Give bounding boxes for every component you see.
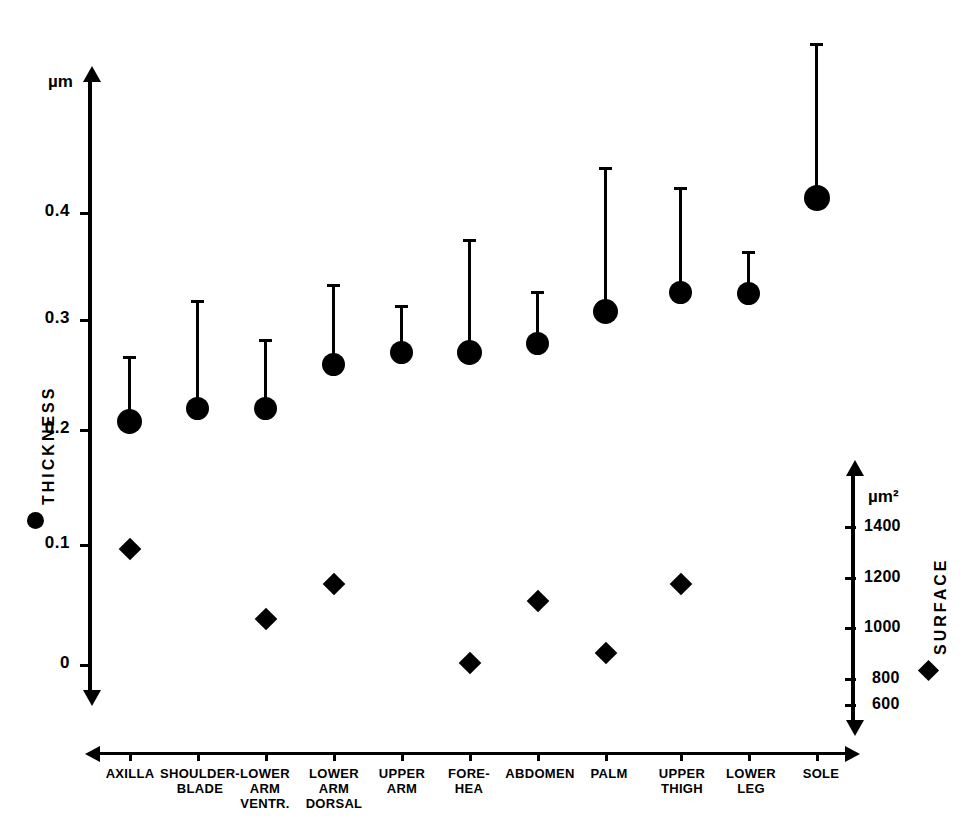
right-tick-label-2: 1000 xyxy=(864,618,901,636)
x-tick-8 xyxy=(680,752,683,761)
thickness-legend-circle-icon xyxy=(27,512,44,529)
x-label-upper-arm: UPPER ARM xyxy=(366,766,438,796)
x-label-lower-leg: LOWER LEG xyxy=(715,766,787,796)
right-axis-title: SURFACE xyxy=(932,558,950,655)
left-tick-0 xyxy=(80,212,92,215)
surface-point-upper-thigh xyxy=(670,573,693,596)
error-bar xyxy=(196,301,199,408)
left-tick-1 xyxy=(80,319,92,322)
x-tick-6 xyxy=(537,752,540,761)
left-tick-3 xyxy=(80,544,92,547)
x-label-abdomen: ABDOMEN xyxy=(495,766,585,781)
right-axis-bottom-arrow xyxy=(846,720,864,736)
figure-panel: µm 0.4 0.3 0.2 0.1 0 THICKNESS µm² 1400 … xyxy=(0,0,960,834)
right-axis-line xyxy=(851,474,855,722)
x-tick-10 xyxy=(816,752,819,761)
x-label-forehead: FORE- HEA xyxy=(434,766,504,796)
error-bar-cap xyxy=(123,356,136,359)
left-tick-label-4: 0 xyxy=(18,653,70,673)
surface-point-palm xyxy=(595,642,618,665)
error-bar xyxy=(815,44,818,199)
thickness-point-lower-leg xyxy=(737,282,760,305)
thickness-point-sole xyxy=(804,185,830,211)
right-tick-label-3: 800 xyxy=(872,669,900,687)
left-tick-label-0: 0.4 xyxy=(18,201,70,221)
left-tick-label-1: 0.3 xyxy=(18,308,70,328)
right-tick-1 xyxy=(845,577,856,580)
x-tick-2 xyxy=(265,752,268,761)
error-bar-cap xyxy=(810,43,823,46)
x-tick-4 xyxy=(401,752,404,761)
surface-legend-diamond-icon xyxy=(918,660,939,681)
x-label-palm: PALM xyxy=(578,766,640,781)
right-tick-label-0: 1400 xyxy=(864,517,901,535)
error-bar-cap xyxy=(327,284,340,287)
thickness-point-upper-thigh xyxy=(669,281,692,304)
thickness-point-forehead xyxy=(457,340,482,365)
thickness-point-axilla xyxy=(117,409,142,434)
thickness-point-shoulder-blade xyxy=(186,397,209,420)
right-axis-top-arrow xyxy=(846,460,864,476)
x-axis-right-arrow xyxy=(845,746,860,762)
surface-point-lower-arm-ventr xyxy=(255,608,278,631)
right-axis-unit: µm² xyxy=(868,487,899,507)
error-bar-cap xyxy=(395,305,408,308)
x-tick-0 xyxy=(129,752,132,761)
x-tick-3 xyxy=(333,752,336,761)
left-axis-bottom-arrow xyxy=(83,690,101,706)
error-bar-cap xyxy=(742,251,755,254)
thickness-point-lower-arm-dorsal xyxy=(322,353,345,376)
x-label-upper-thigh: UPPER THIGH xyxy=(645,766,719,796)
thickness-point-lower-arm-ventr xyxy=(254,397,277,420)
x-label-lower-arm-dorsal: LOWER ARM DORSAL xyxy=(292,766,376,811)
x-tick-5 xyxy=(469,752,472,761)
x-label-sole: SOLE xyxy=(790,766,852,781)
thickness-point-palm xyxy=(593,299,618,324)
x-tick-1 xyxy=(197,752,200,761)
left-axis-line xyxy=(88,80,92,692)
error-bar-cap xyxy=(599,167,612,170)
x-tick-9 xyxy=(748,752,751,761)
error-bar-cap xyxy=(674,187,687,190)
right-tick-label-1: 1200 xyxy=(864,568,901,586)
error-bar-cap xyxy=(463,239,476,242)
x-axis-left-arrow xyxy=(85,746,100,762)
left-tick-2 xyxy=(80,429,92,432)
thickness-point-abdomen xyxy=(526,332,549,355)
error-bar xyxy=(604,168,607,311)
surface-point-lower-arm-dorsal xyxy=(323,573,346,596)
right-tick-2 xyxy=(845,627,856,630)
surface-point-abdomen xyxy=(527,590,550,613)
right-tick-3 xyxy=(845,678,856,681)
surface-point-axilla xyxy=(119,538,142,561)
left-axis-title: THICKNESS xyxy=(40,386,58,505)
left-tick-label-3: 0.1 xyxy=(18,533,70,553)
surface-point-forehead xyxy=(459,652,482,675)
error-bar-cap xyxy=(191,300,204,303)
left-axis-unit: µm xyxy=(48,72,73,92)
error-bar-cap xyxy=(259,339,272,342)
x-tick-7 xyxy=(605,752,608,761)
left-axis-top-arrow xyxy=(83,66,101,82)
thickness-point-upper-arm xyxy=(390,341,413,364)
error-bar xyxy=(679,188,682,290)
x-axis-line xyxy=(99,752,845,755)
right-tick-label-4: 600 xyxy=(872,695,900,713)
error-bar-cap xyxy=(531,291,544,294)
right-tick-0 xyxy=(845,526,856,529)
right-tick-4 xyxy=(845,704,856,707)
error-bar xyxy=(468,240,471,352)
left-tick-4 xyxy=(80,664,92,667)
